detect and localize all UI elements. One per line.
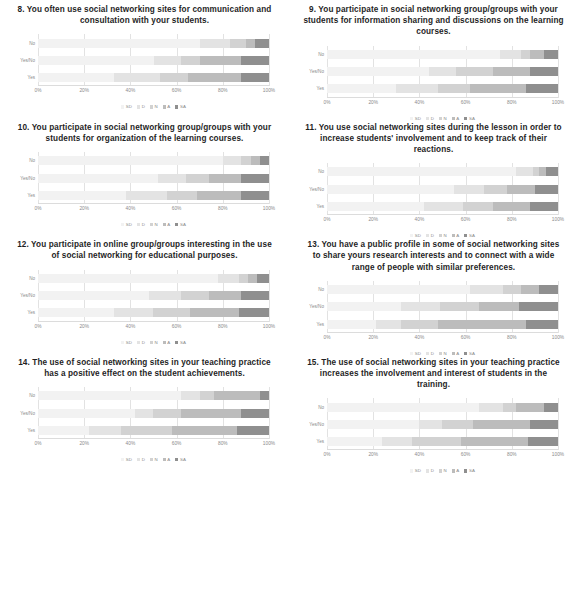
x-axis-tick-label: 20%: [368, 335, 378, 340]
legend-swatch-icon: [163, 223, 166, 226]
bar-segment-sd: [38, 191, 126, 200]
legend-item-sa: SA: [175, 340, 186, 345]
legend-swatch-icon: [452, 117, 455, 120]
x-axis-labels: 0%20%40%60%80%100%: [38, 324, 269, 334]
legend-item-sa: SA: [464, 233, 475, 238]
legend-swatch-icon: [137, 458, 140, 461]
bar-segment-d: [429, 67, 457, 76]
y-axis-tick-label: Yes/No: [20, 56, 38, 65]
bar-row: [38, 426, 269, 435]
document-page: 8. You often use social networking sites…: [0, 0, 578, 616]
x-axis-tick-label: 100%: [552, 452, 564, 457]
legend-swatch-icon: [426, 234, 429, 237]
x-axis-tick-label: 20%: [79, 206, 89, 211]
bar-segment-sd: [38, 308, 114, 317]
legend-item-sd: SD: [410, 233, 421, 238]
legend-swatch-icon: [426, 352, 429, 355]
legend-label: SD: [415, 468, 421, 473]
legend-item-a: A: [452, 116, 460, 121]
legend-swatch-icon: [121, 341, 124, 344]
y-axis-tick-label: Yes: [28, 191, 39, 200]
x-axis-labels: 0%20%40%60%80%100%: [38, 441, 269, 451]
bar-segment-sd: [38, 56, 154, 65]
bar-segment-a: [251, 156, 260, 165]
legend-label: N: [444, 468, 447, 473]
legend-swatch-icon: [121, 223, 124, 226]
bar-segment-d: [382, 437, 412, 446]
legend-swatch-icon: [464, 469, 467, 472]
legend-swatch-icon: [121, 105, 124, 108]
bar-row: [38, 274, 269, 283]
legend-label: SA: [180, 457, 186, 462]
bar-segment-sd: [327, 167, 516, 176]
bar-row: [327, 320, 558, 329]
legend-swatch-icon: [150, 223, 153, 226]
plot-area: [327, 163, 558, 215]
x-axis-tick-label: 60%: [172, 88, 182, 93]
legend-label: A: [167, 222, 170, 227]
bar-segment-a: [200, 56, 242, 65]
legend-label: SD: [126, 457, 132, 462]
legend-label: SA: [469, 468, 475, 473]
y-axis-labels: NoYes/NoYes: [297, 163, 327, 215]
y-axis-labels: NoYes/NoYes: [8, 387, 38, 439]
bar-segment-sd: [38, 409, 135, 418]
x-axis-labels: 0%20%40%60%80%100%: [38, 88, 269, 98]
legend-label: A: [167, 340, 170, 345]
bar-segment-n: [503, 403, 517, 412]
legend-label: D: [431, 233, 434, 238]
legend-swatch-icon: [410, 352, 413, 355]
x-axis-line: [327, 214, 558, 215]
bar-segment-n: [181, 291, 209, 300]
legend-item-d: D: [137, 222, 145, 227]
legend-label: SD: [415, 233, 421, 238]
legend-swatch-icon: [439, 117, 442, 120]
bar-segment-a: [181, 409, 241, 418]
bar-segment-n: [440, 302, 479, 311]
x-axis-tick-label: 60%: [461, 217, 471, 222]
bar-segment-n: [239, 274, 248, 283]
chart-legend: SDDNASA: [327, 233, 558, 238]
bar-segment-a: [516, 403, 544, 412]
bar-segment-sd: [38, 174, 158, 183]
legend-swatch-icon: [426, 469, 429, 472]
x-axis-tick-label: 80%: [507, 452, 517, 457]
x-axis-tick-label: 100%: [263, 206, 275, 211]
bar-rows: [327, 281, 558, 333]
legend-swatch-icon: [137, 105, 140, 108]
bar-segment-sa: [530, 202, 558, 211]
legend-item-d: D: [426, 351, 434, 356]
bar-segment-d: [424, 202, 463, 211]
bar-row: [327, 185, 558, 194]
bar-row: [327, 403, 558, 412]
bar-segment-n: [438, 84, 470, 93]
legend-label: SA: [469, 233, 475, 238]
x-axis-tick-label: 0%: [35, 324, 42, 329]
x-axis-tick-label: 100%: [552, 217, 564, 222]
bar-segment-sa: [530, 420, 558, 429]
legend-swatch-icon: [452, 234, 455, 237]
legend-swatch-icon: [137, 341, 140, 344]
legend-label: A: [456, 116, 459, 121]
y-axis-tick-label: No: [29, 39, 38, 48]
legend-swatch-icon: [439, 234, 442, 237]
legend-item-sd: SD: [121, 222, 132, 227]
legend-label: N: [444, 116, 447, 121]
y-axis-tick-label: No: [29, 156, 38, 165]
legend-swatch-icon: [175, 105, 178, 108]
bar-segment-a: [493, 67, 530, 76]
x-axis-tick-label: 80%: [218, 441, 228, 446]
bar-row: [38, 409, 269, 418]
x-axis-labels: 0%20%40%60%80%100%: [327, 452, 558, 462]
x-axis-tick-label: 0%: [35, 88, 42, 93]
bar-row: [38, 391, 269, 400]
bar-segment-n: [456, 67, 493, 76]
y-axis-tick-label: Yes: [317, 202, 328, 211]
bar-rows: [38, 387, 269, 439]
legend-item-d: D: [137, 104, 145, 109]
legend-item-n: N: [150, 457, 158, 462]
legend-item-sd: SD: [121, 457, 132, 462]
legend-label: A: [456, 233, 459, 238]
bar-segment-n: [503, 285, 521, 294]
bar-row: [38, 73, 269, 82]
